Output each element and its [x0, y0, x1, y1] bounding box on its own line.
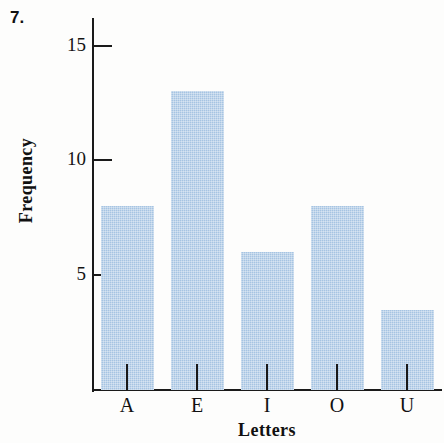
bar-chart-plot: 51015 AEIOU Frequency Letters — [0, 0, 444, 443]
y-axis-tick-label-text: 5 — [46, 263, 86, 285]
y-axis-tick — [94, 159, 112, 161]
x-axis-tick — [336, 364, 338, 390]
y-axis-tick-label: 10 — [40, 148, 86, 168]
x-axis-tick — [126, 364, 128, 390]
y-axis-title: Frequency — [16, 111, 37, 251]
x-axis-tick-label: U — [387, 394, 427, 417]
y-axis-tick-label: 5 — [40, 263, 86, 283]
y-axis-line — [92, 18, 94, 392]
x-axis-tick — [406, 364, 408, 390]
y-axis-tick-label-text: 15 — [46, 34, 86, 56]
x-axis-tick-label: O — [317, 394, 357, 417]
bar — [171, 91, 224, 390]
bar — [101, 206, 154, 390]
x-axis-tick — [266, 364, 268, 390]
y-axis-tick-label-text: 10 — [46, 148, 86, 170]
y-axis-tick-label: 15 — [40, 34, 86, 54]
x-axis-tick-label: E — [177, 394, 217, 417]
figure-container: 7. 51015 AEIOU Frequency Letters — [0, 0, 444, 443]
y-axis-tick — [94, 45, 112, 47]
x-axis-title: Letters — [92, 420, 442, 441]
x-axis-tick — [196, 364, 198, 390]
x-axis-tick-label: A — [107, 394, 147, 417]
bar — [311, 206, 364, 390]
x-axis-tick-label: I — [247, 394, 287, 417]
